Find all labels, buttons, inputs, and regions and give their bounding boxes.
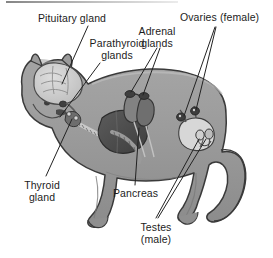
ovary-highlight-2 bbox=[193, 109, 195, 111]
parathyroid-organ-1 bbox=[67, 112, 71, 116]
label-parathyroid-line-2: glands bbox=[101, 49, 133, 61]
ovary-organ-2 bbox=[191, 107, 200, 115]
label-adrenal-line-1: Adrenal bbox=[139, 25, 176, 37]
pituitary-organ bbox=[59, 101, 66, 107]
adrenal-organ-1 bbox=[125, 91, 135, 98]
ovary-organ-1 bbox=[177, 113, 186, 121]
label-thyroid-line-2: gland bbox=[29, 191, 55, 203]
label-adrenal-glands: Adrenalglands bbox=[126, 26, 188, 49]
label-thyroid-line-1: Thyroid bbox=[24, 179, 60, 191]
label-pituitary-gland: Pituitary gland bbox=[38, 13, 106, 25]
label-testes-line-2: (male) bbox=[141, 233, 171, 245]
label-pancreas: Pancreas bbox=[113, 188, 158, 200]
label-testes-line-1: Testes bbox=[141, 221, 172, 233]
label-thyroid-gland: Thyroidgland bbox=[8, 180, 76, 203]
testis-organ-1 bbox=[196, 130, 204, 140]
label-ovaries-female: Ovaries (female) bbox=[180, 12, 259, 24]
label-adrenal-line-2: glands bbox=[141, 37, 173, 49]
label-testes-male: Testes(male) bbox=[124, 222, 188, 245]
endocrine-glands-figure: Pituitary gland Parathyroidglands Adrena… bbox=[0, 0, 273, 258]
parathyroid-organ-2 bbox=[74, 116, 78, 120]
testis-organ-2 bbox=[205, 129, 213, 139]
ovary-highlight-1 bbox=[179, 115, 181, 117]
